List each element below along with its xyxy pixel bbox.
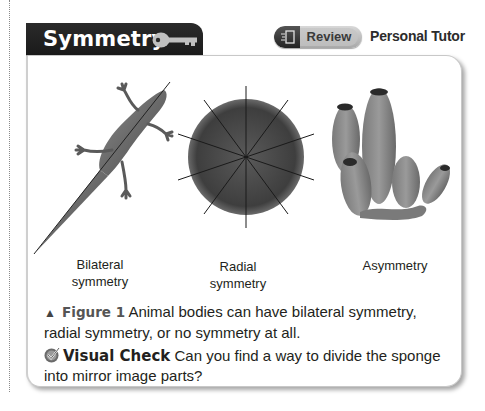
key-icon [152,32,198,48]
review-button[interactable]: Review [274,26,362,48]
review-button-label: Review [300,28,358,46]
section-tab: Symmetry [26,23,203,56]
triangle-marker-icon: ▲ [44,306,56,320]
visual-check: Visual Check Can you find a way to divid… [44,346,444,385]
sponge-asymmetry-image [326,84,456,224]
sand-dollar-radial-symmetry-image [170,82,320,230]
section-title: Symmetry [43,27,166,51]
label-line: symmetry [60,273,140,290]
figure-caption: ▲ Figure 1 Animal bodies can have bilate… [44,302,444,342]
check-mark-icon [44,347,60,363]
bilateral-symmetry-label: Bilateral symmetry [60,256,140,290]
asymmetry-label: Asymmetry [350,257,440,274]
figure-number: Figure 1 [62,304,125,320]
review-icon-area [274,26,300,48]
personal-tutor-link[interactable]: Personal Tutor [370,28,465,44]
label-line: Bilateral [60,256,140,273]
label-line: symmetry [198,275,278,292]
visual-check-label: Visual Check [63,347,170,365]
lizard-bilateral-symmetry-image [30,78,175,258]
label-line: Asymmetry [350,257,440,274]
label-line: Radial [198,258,278,275]
review-document-icon [281,30,295,44]
radial-symmetry-label: Radial symmetry [198,258,278,292]
page-margin-dotted-line [9,0,10,392]
